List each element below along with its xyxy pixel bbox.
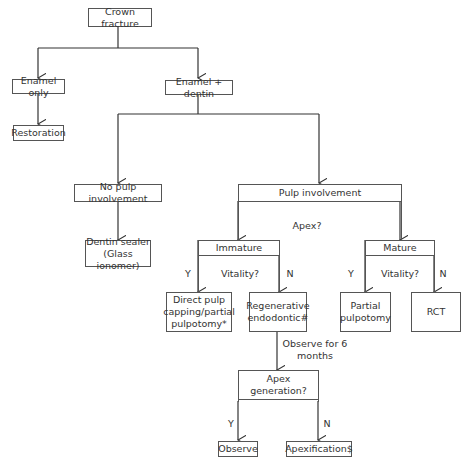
- node-pulp-involvement: Pulp involvement: [238, 184, 402, 241]
- node-enamel-dentin: Enamel + dentin: [165, 80, 233, 95]
- pulp-involvement-label: Pulp involvement: [239, 185, 401, 202]
- label-yes-apex: Y: [226, 418, 236, 430]
- mature-label: Mature: [366, 241, 434, 256]
- node-dentin-sealer: Dentin sealer (Glass ionomer): [85, 240, 151, 267]
- node-partial-pulpotomy: Partial pulpotomy: [340, 292, 391, 332]
- flowchart-connectors: [0, 0, 473, 467]
- label-no-immature: N: [285, 268, 295, 280]
- node-observe: Observe: [218, 441, 258, 457]
- label-yes-immature: Y: [183, 268, 193, 280]
- label-no-apex: N: [322, 418, 332, 430]
- node-apex-generation: Apex generation?: [238, 370, 319, 402]
- label-apex: Apex?: [287, 220, 327, 232]
- node-crown-fracture: Crown fracture: [88, 8, 152, 27]
- node-enamel-only: Enamel only: [12, 79, 65, 94]
- label-yes-mature: Y: [346, 268, 356, 280]
- label-vitality-immature: Vitality?: [220, 268, 260, 280]
- label-observe-6-months: Observe for 6 months: [280, 338, 350, 362]
- node-rct: RCT: [411, 292, 461, 332]
- node-restoration: Restoration: [13, 125, 64, 141]
- immature-label: Immature: [199, 241, 279, 256]
- label-vitality-mature: Vitality?: [378, 268, 422, 280]
- label-no-mature: N: [438, 268, 448, 280]
- node-direct-pulp-capping: Direct pulp capping/partial pulpotomy*: [166, 292, 232, 332]
- node-regenerative-endodontic: Regenerative endodontic#: [249, 292, 307, 332]
- apex-generation-label: Apex generation?: [239, 371, 318, 400]
- node-apexification: Apexification$: [286, 441, 352, 457]
- node-no-pulp-involvement: No pulp involvement: [74, 184, 162, 202]
